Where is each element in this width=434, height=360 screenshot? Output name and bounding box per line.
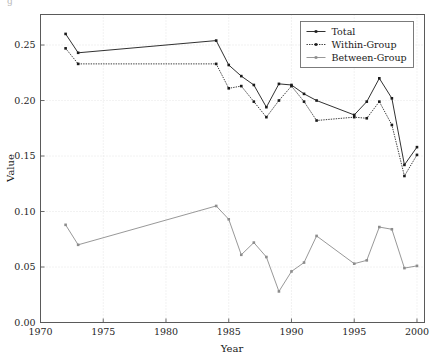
data-point-marker	[303, 261, 306, 264]
series-line	[66, 206, 417, 291]
legend-marker-icon	[315, 43, 318, 46]
data-point-marker	[315, 235, 318, 238]
data-point-marker	[403, 267, 406, 270]
data-point-marker	[265, 116, 268, 119]
data-point-marker	[64, 47, 67, 50]
y-axis-label: Value	[5, 154, 16, 183]
x-tick-label: 2000	[405, 326, 429, 337]
data-point-marker	[315, 119, 318, 122]
data-point-marker	[278, 83, 281, 86]
chart-figure: g 1970197519801985199019952000 0.000.050…	[0, 0, 434, 360]
data-point-marker	[278, 290, 281, 293]
data-point-marker	[215, 39, 218, 42]
data-point-marker	[416, 154, 419, 157]
data-point-marker	[77, 63, 80, 66]
y-tick-label: 0.05	[14, 261, 35, 272]
legend-label: Total	[332, 26, 356, 37]
data-point-marker	[64, 33, 67, 36]
data-point-marker	[227, 218, 230, 221]
x-tick-label: 1990	[279, 326, 303, 337]
legend-marker-icon	[315, 30, 318, 33]
data-point-marker	[391, 228, 394, 231]
y-tick-label: 0.00	[14, 317, 35, 328]
y-tick-label: 0.20	[14, 95, 35, 106]
data-point-marker	[240, 85, 243, 88]
series-lines	[64, 33, 418, 293]
data-point-marker	[290, 85, 293, 88]
data-point-marker	[253, 241, 256, 244]
data-point-marker	[303, 93, 306, 96]
x-axis-ticks: 1970197519801985199019952000	[28, 319, 429, 337]
data-point-marker	[265, 106, 268, 109]
data-point-marker	[227, 87, 230, 90]
data-point-marker	[303, 100, 306, 103]
y-tick-label: 0.15	[14, 150, 35, 161]
legend-label: Between-Group	[332, 52, 407, 63]
data-point-marker	[278, 99, 281, 102]
data-point-marker	[403, 175, 406, 178]
y-axis-ticks: 0.000.050.100.150.200.25	[14, 39, 44, 327]
data-point-marker	[353, 116, 356, 119]
data-point-marker	[77, 244, 80, 247]
legend-label: Within-Group	[332, 39, 397, 50]
x-tick-label: 1975	[91, 326, 115, 337]
data-point-marker	[365, 117, 368, 120]
data-point-marker	[378, 100, 381, 103]
data-point-marker	[391, 124, 394, 127]
data-point-marker	[265, 256, 268, 259]
x-tick-label: 1985	[217, 326, 241, 337]
x-tick-label: 1995	[342, 326, 366, 337]
x-axis-label: Year	[220, 343, 244, 354]
data-point-marker	[315, 99, 318, 102]
data-point-marker	[227, 64, 230, 67]
chart-legend: TotalWithin-GroupBetween-Group	[301, 22, 414, 68]
y-tick-label: 0.10	[14, 206, 35, 217]
data-point-marker	[253, 100, 256, 103]
data-point-marker	[365, 259, 368, 262]
data-point-marker	[240, 75, 243, 78]
data-point-marker	[391, 97, 394, 100]
legend-marker-icon	[315, 56, 318, 59]
data-point-marker	[290, 270, 293, 273]
data-point-marker	[365, 100, 368, 103]
data-point-marker	[77, 51, 80, 54]
data-point-marker	[215, 205, 218, 208]
data-point-marker	[416, 265, 419, 268]
data-point-marker	[403, 164, 406, 167]
data-point-marker	[378, 226, 381, 229]
data-point-marker	[353, 262, 356, 265]
data-point-marker	[353, 114, 356, 117]
data-point-marker	[240, 254, 243, 257]
clipped-text-artifact: g	[7, 0, 13, 6]
x-tick-label: 1980	[154, 326, 178, 337]
data-point-marker	[378, 77, 381, 80]
line-chart: 1970197519801985199019952000 0.000.050.1…	[0, 0, 434, 360]
data-point-marker	[253, 84, 256, 87]
y-tick-label: 0.25	[14, 39, 35, 50]
data-point-marker	[64, 224, 67, 227]
data-point-marker	[215, 63, 218, 66]
series-between-group	[64, 205, 418, 293]
data-point-marker	[416, 146, 419, 149]
